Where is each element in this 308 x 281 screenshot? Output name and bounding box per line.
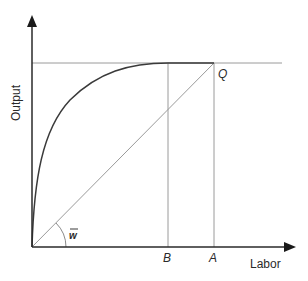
wage-ray xyxy=(32,63,214,247)
angle-arc xyxy=(56,223,66,247)
x-axis-label: Labor xyxy=(250,257,281,271)
point-a-label: A xyxy=(208,251,217,265)
angle-w-label: w xyxy=(69,230,78,241)
y-axis-arrow-icon xyxy=(27,15,37,27)
point-q-label: Q xyxy=(218,67,227,81)
production-diagram: Output Labor Q B A w xyxy=(0,0,308,281)
y-axis-label: Output xyxy=(9,84,23,121)
x-axis-arrow-icon xyxy=(284,242,296,252)
diagram-canvas: Output Labor Q B A w xyxy=(0,0,308,281)
point-b-label: B xyxy=(163,251,171,265)
